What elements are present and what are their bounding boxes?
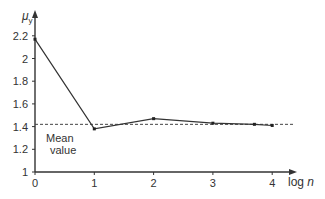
data-point-marker — [271, 124, 274, 127]
data-point-marker — [253, 123, 256, 126]
data-series — [34, 38, 274, 131]
x-tick-label: 0 — [32, 177, 38, 189]
x-tick-label: 1 — [91, 177, 97, 189]
y-tick-label: 1.8 — [13, 75, 28, 87]
x-axis-label: log n — [288, 175, 314, 189]
tick-labels: 11.21.41.61.822.201234 — [13, 30, 276, 189]
y-tick-label: 1.6 — [13, 98, 28, 110]
y-axis-label: μy — [21, 9, 33, 25]
data-point-marker — [34, 38, 37, 41]
y-tick-label: 2.2 — [13, 30, 28, 42]
y-axis-arrow-icon — [32, 10, 38, 18]
y-tick-label: 1 — [22, 166, 28, 178]
mean-value-annotation-line2: value — [50, 144, 76, 156]
data-point-marker — [93, 127, 96, 130]
y-tick-label: 2 — [22, 53, 28, 65]
y-tick-label: 1.2 — [13, 143, 28, 155]
y-tick-label: 1.4 — [13, 121, 28, 133]
data-point-marker — [211, 122, 214, 125]
x-tick-label: 4 — [269, 177, 275, 189]
series-line — [35, 39, 272, 129]
line-chart: 11.21.41.61.822.201234 μy log n Mean val… — [0, 0, 325, 199]
x-tick-label: 3 — [210, 177, 216, 189]
x-tick-label: 2 — [151, 177, 157, 189]
data-point-marker — [152, 117, 155, 120]
mean-value-annotation-line1: Mean — [46, 132, 74, 144]
